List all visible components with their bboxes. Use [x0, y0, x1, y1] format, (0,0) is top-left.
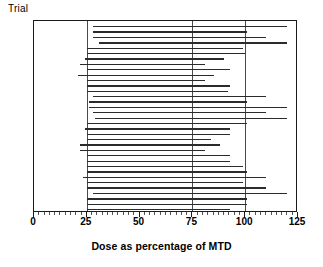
x-tick-minor [49, 212, 50, 215]
x-tick-minor [249, 212, 250, 215]
trial-range-bar [87, 171, 248, 172]
x-tick-minor [181, 212, 182, 215]
trial-range-bar [93, 31, 247, 32]
trial-range-bar [85, 128, 231, 129]
trial-range-bar [87, 187, 267, 188]
x-tick-minor [260, 212, 261, 215]
trial-range-bar [80, 64, 205, 65]
x-tick-label-50: 50 [133, 216, 144, 227]
x-tick-minor [176, 212, 177, 215]
trial-range-bar [85, 58, 224, 59]
plot-inner [34, 21, 296, 211]
x-tick-minor [65, 212, 66, 215]
x-tick-minor [202, 212, 203, 215]
trial-range-bar [87, 139, 212, 140]
trial-range-bar [80, 150, 205, 151]
trial-range-bar [87, 204, 248, 205]
trial-range-bar [78, 75, 213, 76]
x-tick-minor [44, 212, 45, 215]
trial-range-bar [87, 91, 229, 92]
x-tick-minor [112, 212, 113, 215]
x-axis-label: Dose as percentage of MTD [0, 240, 323, 252]
x-tick-minor [75, 212, 76, 215]
trial-range-bar [80, 144, 219, 145]
y-axis-label: Trial [8, 3, 28, 14]
trial-range-bar [87, 123, 248, 124]
x-tick-minor [207, 212, 208, 215]
x-tick-minor [255, 212, 256, 215]
x-tick-minor [154, 212, 155, 215]
x-tick-minor [276, 212, 277, 215]
x-tick-minor [117, 212, 118, 215]
trial-range-bar [87, 155, 231, 156]
x-tick-minor [213, 212, 214, 215]
trial-range-bar [87, 209, 231, 210]
x-tick-minor [123, 212, 124, 215]
trial-range-bar [87, 48, 243, 49]
x-tick-minor [265, 212, 266, 215]
x-tick-minor [197, 212, 198, 215]
trial-range-bar [95, 118, 287, 119]
x-tick-minor [91, 212, 92, 215]
trial-range-bar [89, 107, 288, 108]
x-tick-minor [186, 212, 187, 215]
trial-range-bar [93, 26, 287, 27]
chart-figure: Trial 0255075100125 Dose as percentage o… [0, 0, 323, 267]
x-tick-minor [165, 212, 166, 215]
x-tick-minor [170, 212, 171, 215]
trial-range-bar [93, 193, 287, 194]
plot-area [33, 20, 297, 212]
gridline-x-100 [245, 21, 246, 211]
x-tick-minor [223, 212, 224, 215]
x-tick-label-75: 75 [186, 216, 197, 227]
trial-range-bar [87, 85, 231, 86]
x-tick-label-100: 100 [236, 216, 253, 227]
x-tick-minor [149, 212, 150, 215]
x-tick-minor [160, 212, 161, 215]
x-tick-minor [70, 212, 71, 215]
x-tick-label-25: 25 [80, 216, 91, 227]
trial-range-bar [87, 80, 205, 81]
x-tick-minor [239, 212, 240, 215]
trial-range-bar [87, 69, 231, 70]
x-tick-minor [81, 212, 82, 215]
x-tick-minor [38, 212, 39, 215]
x-tick-minor [286, 212, 287, 215]
x-tick-label-0: 0 [30, 216, 36, 227]
trial-range-bar [89, 101, 247, 102]
x-tick-minor [59, 212, 60, 215]
x-tick-minor [234, 212, 235, 215]
trial-range-bar [87, 198, 248, 199]
x-tick-minor [292, 212, 293, 215]
x-tick-minor [96, 212, 97, 215]
trial-range-bar [87, 53, 245, 54]
trial-range-bar [93, 96, 266, 97]
x-axis-tick-labels: 0255075100125 [0, 216, 323, 232]
trial-range-bar [93, 112, 266, 113]
x-tick-minor [54, 212, 55, 215]
trial-range-bar [99, 42, 287, 43]
trial-range-bar [83, 177, 267, 178]
x-tick-minor [102, 212, 103, 215]
x-tick-minor [128, 212, 129, 215]
x-tick-minor [107, 212, 108, 215]
x-tick-minor [271, 212, 272, 215]
x-tick-minor [133, 212, 134, 215]
x-tick-minor [281, 212, 282, 215]
x-tick-minor [218, 212, 219, 215]
x-tick-label-125: 125 [289, 216, 306, 227]
trial-range-bar [87, 182, 243, 183]
trial-range-bar [93, 37, 266, 38]
x-tick-minor [228, 212, 229, 215]
trial-range-bar [87, 166, 243, 167]
trial-range-bar [87, 134, 231, 135]
x-tick-minor [144, 212, 145, 215]
trial-range-bar [87, 161, 231, 162]
